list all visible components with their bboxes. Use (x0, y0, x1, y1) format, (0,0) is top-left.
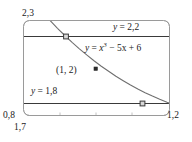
window-ymin-label: 1,7 (14, 122, 26, 132)
curve-equation-label: y = x3 − 5x + 6 (85, 41, 141, 53)
lower-line-label-rhs: 1,8 (45, 86, 57, 96)
intersection-marker-upper (64, 34, 69, 39)
point-marker-1-2 (94, 67, 97, 70)
upper-line-label: y = 2,2 (113, 22, 139, 32)
curve-label-rest: − 5x + 6 (107, 43, 141, 53)
window-xmax-label: 1,2 (167, 110, 179, 120)
curve-label-eq: = (89, 43, 99, 53)
lower-line-label: y = 1,8 (31, 86, 57, 96)
graph-figure: 2,3 0,8 1,7 1,2 y = 2,2 y = x3 − 5x + 6 … (0, 0, 192, 142)
intersection-marker-lower (140, 101, 145, 106)
window-ymax-label: 2,3 (22, 8, 34, 18)
window-xmin-label: 0,8 (3, 110, 15, 120)
point-label: (1, 2) (56, 65, 77, 75)
graph-canvas (0, 0, 192, 142)
upper-line-label-rhs: 2,2 (127, 22, 139, 32)
upper-line-label-eq: = (117, 22, 127, 32)
lower-line-label-eq: = (35, 86, 45, 96)
